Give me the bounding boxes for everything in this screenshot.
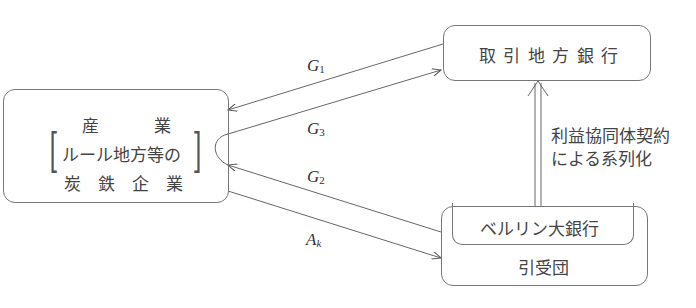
- double-arrow-head: [528, 81, 548, 96]
- edge-g3-arrow: [215, 70, 441, 165]
- edge-label-ak: Ak: [306, 230, 321, 250]
- industry-line1: ルール地方等の: [62, 141, 181, 166]
- industry-line2: 炭 鉄 企 業: [64, 170, 183, 195]
- berlin-banks-label: ベルリン大銀行: [480, 215, 599, 240]
- regional-bank-label: 取 引 地 方 銀 行: [479, 42, 619, 67]
- affiliation-label-line1: 利益協同体契約: [551, 122, 670, 147]
- industry-title: 産 業: [82, 112, 172, 137]
- right-bracket: ]: [192, 128, 201, 174]
- edge-label-g1: G1: [307, 56, 325, 76]
- edge-g1-arrow: [228, 44, 443, 110]
- edge-label-g3: G3: [307, 119, 325, 139]
- edge-ak-arrow: [228, 191, 441, 258]
- syndicate-label: 引受団: [518, 254, 569, 279]
- affiliation-label-line2: による系列化: [551, 145, 652, 170]
- left-bracket: [: [49, 128, 58, 174]
- edge-label-g2: G2: [307, 167, 325, 187]
- edge-g2-arrow: [228, 165, 441, 232]
